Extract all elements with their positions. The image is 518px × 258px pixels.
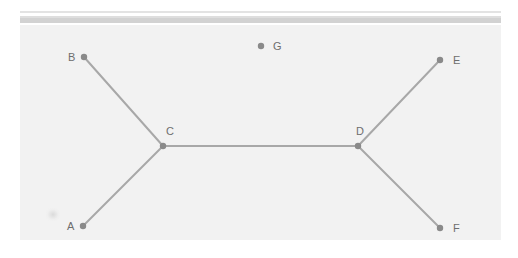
graph-node-label-a: A	[67, 221, 74, 232]
graph-edge-b-c[interactable]	[84, 57, 163, 146]
node-layer	[80, 43, 443, 231]
screenshot-root: ABCDEFG	[0, 0, 518, 258]
horizontal-scroll-strip[interactable]	[20, 8, 501, 25]
graph-diagram-panel: ABCDEFG	[20, 25, 501, 240]
edge-layer	[83, 57, 440, 228]
graph-node-g[interactable]	[258, 43, 264, 49]
graph-node-label-d: D	[356, 126, 364, 137]
scroll-thumb-highlight	[20, 16, 501, 18]
graph-node-e[interactable]	[437, 57, 443, 63]
graph-node-f[interactable]	[437, 225, 443, 231]
graph-node-label-e: E	[453, 55, 460, 66]
graph-node-label-g: G	[273, 41, 282, 52]
graph-node-label-b: B	[68, 52, 75, 63]
graph-node-label-f: F	[453, 223, 460, 234]
graph-node-c[interactable]	[160, 143, 166, 149]
graph-edge-a-c[interactable]	[83, 146, 163, 226]
graph-node-a[interactable]	[80, 223, 86, 229]
graph-node-d[interactable]	[355, 143, 361, 149]
scroll-track[interactable]	[20, 11, 501, 13]
graph-node-b[interactable]	[81, 54, 87, 60]
graph-edge-d-f[interactable]	[358, 146, 440, 228]
graph-edge-d-e[interactable]	[358, 60, 440, 146]
graph-node-label-c: C	[166, 126, 174, 137]
graph-canvas	[20, 25, 501, 240]
